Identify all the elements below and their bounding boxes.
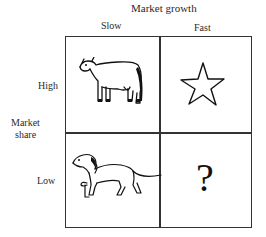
horizontal-divider (66, 132, 251, 134)
row-label-high: High (38, 80, 58, 91)
row-label-low: Low (37, 175, 55, 186)
cow-icon (78, 57, 148, 107)
dog-icon (71, 153, 163, 203)
star-icon (180, 61, 226, 107)
y-axis-title-line2: share (15, 129, 36, 140)
column-label-fast: Fast (194, 22, 211, 33)
question-mark-icon: ? (196, 158, 214, 198)
matrix-grid: ? (65, 36, 252, 228)
x-axis-title: Market growth (131, 2, 197, 14)
y-axis-title-line1: Market (11, 117, 40, 128)
column-label-slow: Slow (101, 20, 122, 31)
